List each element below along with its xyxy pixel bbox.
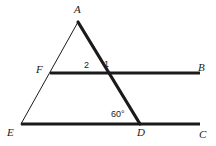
angle-measure-label: 60° — [111, 110, 125, 119]
diagram-canvas — [0, 0, 216, 146]
vertex-label-C: C — [199, 129, 206, 140]
vertex-label-E: E — [7, 127, 14, 138]
angle-label-2: 2 — [84, 61, 89, 70]
vertex-label-D: D — [137, 127, 145, 138]
vertex-label-B: B — [198, 62, 205, 73]
angle-label-1: 1 — [104, 60, 109, 69]
vertex-label-F: F — [36, 64, 43, 75]
vertex-label-A: A — [74, 4, 81, 15]
geometry-diagram: A F B E D C 2 1 60° — [0, 0, 216, 146]
